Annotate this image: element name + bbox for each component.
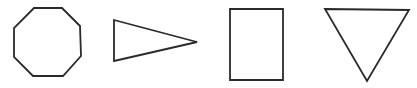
right-triangle-shape — [114, 20, 197, 61]
shapes-figure — [0, 0, 417, 88]
rectangle-shape — [230, 9, 283, 80]
octagon-shape — [14, 8, 81, 76]
down-triangle-shape — [325, 9, 409, 81]
